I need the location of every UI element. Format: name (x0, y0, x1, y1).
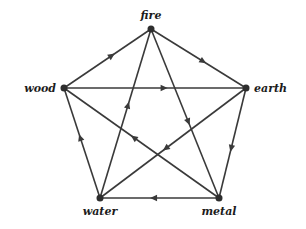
node-label-earth: earth (254, 82, 287, 95)
arrowhead-water-to-fire-icon (124, 102, 130, 110)
node-earth (243, 85, 250, 92)
arrowhead-metal-to-wood-icon (131, 135, 139, 142)
node-label-water: water (83, 205, 119, 218)
edge-wood-to-fire (64, 29, 151, 88)
arrowhead-wood-to-earth-icon (161, 85, 168, 91)
node-label-metal: metal (201, 205, 236, 218)
nodes-layer (61, 26, 250, 202)
node-label-fire: fire (140, 9, 162, 22)
edge-water-to-wood (64, 88, 100, 198)
five-elements-diagram: fire wood earth water metal (0, 0, 306, 229)
arrowhead-metal-to-water-icon (150, 195, 157, 201)
edge-fire-to-metal (151, 29, 219, 198)
node-label-wood: wood (24, 82, 56, 95)
edge-metal-to-wood (64, 88, 219, 198)
node-fire (148, 26, 155, 33)
arrowhead-water-to-wood-icon (78, 134, 84, 142)
edge-fire-to-earth (151, 29, 246, 88)
arrowhead-wood-to-fire-icon (107, 54, 115, 61)
edges-layer (64, 29, 246, 201)
node-metal (216, 195, 223, 202)
node-water (97, 195, 104, 202)
node-wood (61, 85, 68, 92)
edge-water-to-fire (100, 29, 151, 198)
edge-earth-to-water (100, 88, 246, 198)
